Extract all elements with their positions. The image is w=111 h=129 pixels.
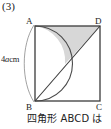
length-brace-ab [24, 25, 34, 102]
side-length-unit: cm [9, 54, 19, 64]
side-length-label: 4acm [1, 55, 19, 64]
vertex-label-a: A [26, 17, 33, 26]
vertex-label-d: D [95, 17, 102, 26]
figure-panel: (3) A D B C 4acm 四角形 ABCD は [0, 0, 111, 129]
vertex-label-c: C [96, 103, 102, 112]
caption-text: 四角形 ABCD は [27, 114, 103, 124]
vertex-label-b: B [26, 103, 32, 112]
problem-number: (3) [2, 1, 15, 12]
